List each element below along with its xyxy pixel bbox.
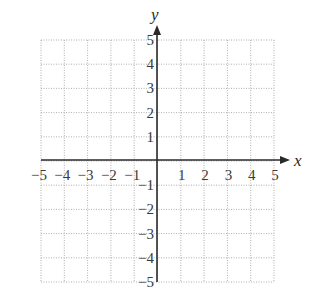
x-axis-label: x [293, 151, 302, 170]
y-tick-label: −1 [138, 177, 154, 193]
x-tick-label: −2 [101, 167, 117, 183]
y-axis-arrow-icon [153, 25, 161, 35]
x-tick-label: 2 [201, 167, 209, 183]
y-tick-label: 5 [147, 32, 155, 48]
x-tick-label: 4 [248, 167, 256, 183]
y-tick-label: −5 [138, 274, 154, 290]
axes [41, 25, 290, 282]
y-tick-label: 1 [147, 129, 155, 145]
y-tick-label: 4 [147, 56, 155, 72]
y-tick-label: 3 [147, 80, 155, 96]
y-tick-label: −4 [138, 250, 154, 266]
y-tick-label: −3 [138, 226, 154, 242]
x-tick-label: −3 [78, 167, 94, 183]
x-tick-labels: −5−4−3−2−112345 [31, 167, 279, 183]
y-axis-label: y [149, 5, 159, 24]
y-tick-label: −2 [138, 201, 154, 217]
x-tick-label: 3 [225, 167, 233, 183]
x-axis-arrow-icon [280, 156, 290, 164]
x-tick-label: −5 [31, 167, 47, 183]
x-tick-label: 1 [178, 167, 186, 183]
x-tick-label: −4 [54, 167, 70, 183]
y-tick-label: 2 [147, 105, 155, 121]
coordinate-plane: x y −5−4−3−2−112345 54321−1−2−3−4−5 [0, 0, 320, 295]
x-tick-label: 5 [271, 167, 279, 183]
